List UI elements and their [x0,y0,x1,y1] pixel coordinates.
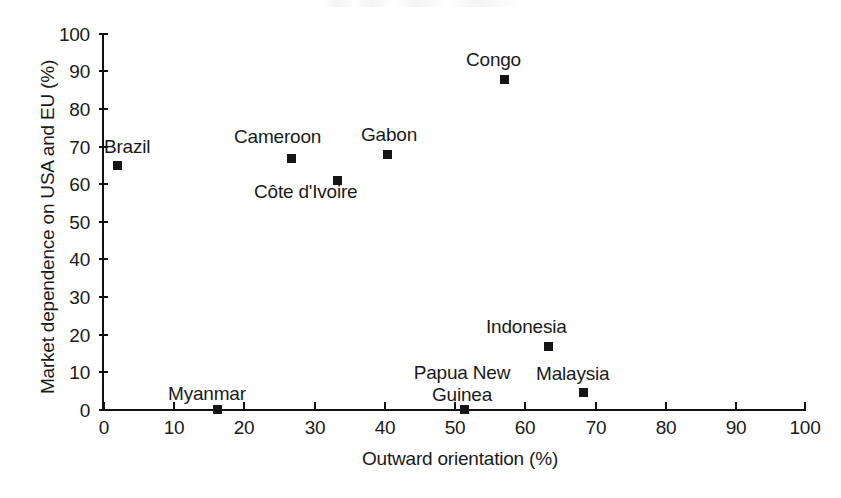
y-tick-10 [99,371,108,373]
x-tick-label-90: 90 [704,416,768,439]
x-tick-label-40: 40 [353,416,417,439]
y-tick-20 [99,334,108,336]
x-axis-title: Outward orientation (%) [240,448,680,470]
y-tick-50 [99,221,108,223]
point-label-congo: Congo [466,49,521,70]
data-point-papua-new-guinea[interactable] [460,405,469,414]
point-label-papua-new-guinea: Papua New Guinea [386,362,538,406]
data-point-brazil[interactable] [113,161,122,170]
y-tick-100 [99,33,108,35]
x-tick-label-70: 70 [564,416,628,439]
point-label-cote-divoire: Côte d'Ivoire [254,181,357,202]
data-point-indonesia[interactable] [544,342,553,351]
x-tick-label-80: 80 [634,416,698,439]
x-tick-label-100: 100 [773,416,837,439]
y-axis-title: Market dependence on USA and EU (%) [37,27,59,427]
y-tick-80 [99,108,108,110]
point-label-malaysia: Malaysia [536,363,609,384]
y-tick-90 [99,70,108,72]
x-tick-100 [804,402,806,410]
data-point-malaysia[interactable] [579,388,588,397]
x-tick-label-30: 30 [283,416,347,439]
y-tick-60 [99,183,108,185]
x-tick-label-60: 60 [493,416,557,439]
point-label-myanmar: Myanmar [168,383,246,404]
x-tick-30 [314,402,316,410]
point-label-brazil: Brazil [104,136,150,157]
scatter-chart-figure: 0 10 20 30 40 50 60 70 80 90 100 0 10 20… [0,0,841,498]
data-point-myanmar[interactable] [213,405,222,414]
x-tick-80 [665,402,667,410]
x-tick-label-50: 50 [423,416,487,439]
x-tick-70 [595,402,597,410]
x-tick-label-20: 20 [212,416,276,439]
point-label-cameroon: Cameroon [234,126,321,147]
point-label-papua-new-guinea-line2: Guinea [432,384,492,405]
x-tick-90 [735,402,737,410]
point-label-papua-new-guinea-line1: Papua New [414,362,510,383]
data-point-congo[interactable] [500,75,509,84]
data-point-cameroon[interactable] [287,154,296,163]
data-point-gabon[interactable] [383,150,392,159]
x-tick-label-10: 10 [142,416,206,439]
point-label-gabon: Gabon [361,124,417,145]
y-tick-30 [99,296,108,298]
y-tick-40 [99,258,108,260]
y-tick-0 [99,409,108,411]
point-label-indonesia: Indonesia [486,316,567,337]
plot-area: 0 10 20 30 40 50 60 70 80 90 100 0 10 20… [0,0,841,498]
